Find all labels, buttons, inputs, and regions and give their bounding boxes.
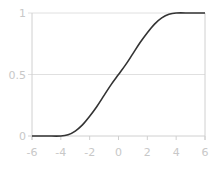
x-tick-labels: -6-4-20246 xyxy=(27,146,209,159)
y-tick-label: 0 xyxy=(19,130,26,143)
y-tick-label: 0.5 xyxy=(9,69,27,82)
x-tick-label: 2 xyxy=(144,146,151,159)
sigmoid-chart: 00.51 -6-4-20246 xyxy=(0,0,214,169)
x-tick-label: -4 xyxy=(55,146,66,159)
y-tick-label: 1 xyxy=(19,7,26,20)
axes xyxy=(32,13,205,140)
x-tick-label: 0 xyxy=(115,146,122,159)
x-tick-label: 4 xyxy=(173,146,180,159)
x-tick-label: 6 xyxy=(202,146,209,159)
x-tick-label: -2 xyxy=(84,146,95,159)
y-tick-labels: 00.51 xyxy=(9,7,27,143)
gridlines xyxy=(28,13,205,136)
x-tick-label: -6 xyxy=(27,146,38,159)
